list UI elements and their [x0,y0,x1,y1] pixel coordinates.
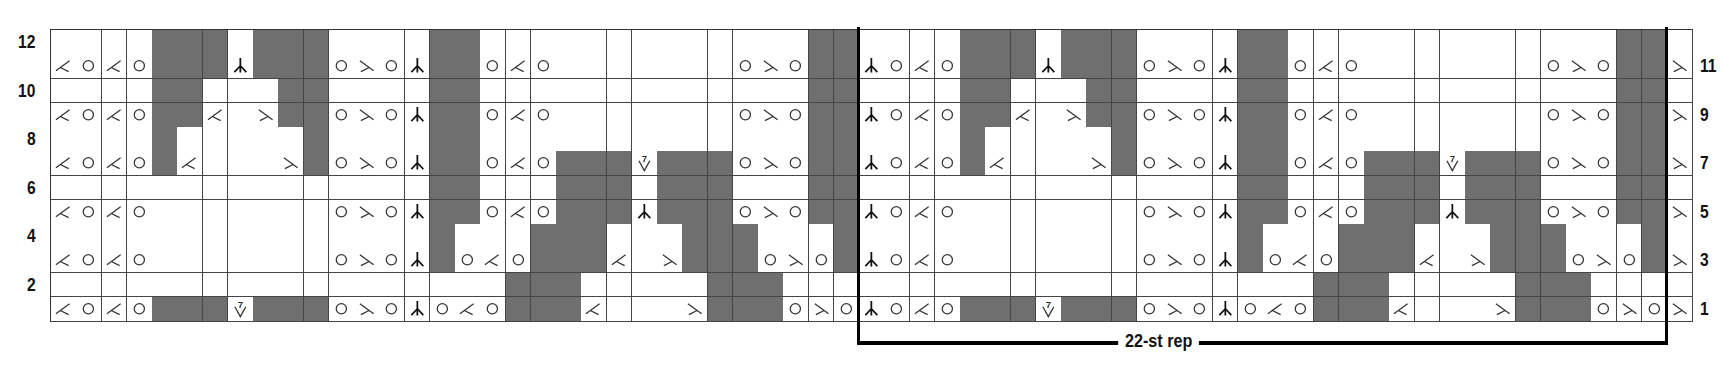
chart-cell [506,224,532,249]
right-decrease-icon [783,248,808,272]
right-decrease-icon [1566,151,1591,175]
chart-cell [1667,151,1693,176]
chart-cell [1288,248,1314,273]
chart-cell [1389,79,1415,104]
chart-cell [708,30,734,55]
left-decrease-icon [985,151,1010,175]
chart-cell [581,248,607,273]
chart-cell [1516,127,1542,152]
chart-cell [960,176,986,201]
chart-cell [1061,273,1087,298]
chart-cell [1516,103,1542,128]
chart-cell [809,200,835,225]
chart-cell [1162,103,1188,128]
chart-cell [758,176,784,201]
chart-cell [354,30,380,55]
right-decrease-icon [1667,297,1692,321]
chart-cell [480,127,506,152]
chart-cell [152,30,178,55]
chart-cell [1061,79,1087,104]
chart-cell [1415,30,1441,55]
left-decrease-icon [480,248,505,272]
chart-cell [506,30,532,55]
chart-cell [1137,176,1163,201]
chart-cell [1389,54,1415,79]
chart-cell [1490,79,1516,104]
chart-cell [960,273,986,298]
chart-cell [354,224,380,249]
chart-cell [1389,151,1415,176]
chart-cell [506,200,532,225]
repeat-bracket-right [1665,27,1669,344]
chart-cell [1667,127,1693,152]
yarn-over-icon [935,200,960,224]
chart-cell [1112,30,1138,55]
chart-cell [1314,79,1340,104]
yarn-over-icon [1642,297,1667,321]
chart-cell [329,79,355,104]
chart-cell [632,297,658,322]
chart-cell [1288,127,1314,152]
yarn-over-icon [506,248,531,272]
chart-cell [607,127,633,152]
double-decrease-icon [405,54,430,78]
chart-cell [1339,273,1365,298]
chart-cell [1187,273,1213,298]
chart-cell [329,273,355,298]
chart-cell [51,151,77,176]
chart-cell [278,273,304,298]
repeat-label: 22-st rep [1118,330,1199,352]
chart-cell [1339,224,1365,249]
chart-cell [632,273,658,298]
chart-cell [581,200,607,225]
chart-cell [1465,273,1491,298]
yarn-over-icon [531,151,556,175]
yarn-over-icon [935,54,960,78]
chart-cell [783,297,809,322]
chart-cell [1465,200,1491,225]
chart-cell [1389,30,1415,55]
yarn-over-icon [531,200,556,224]
chart-cell [985,127,1011,152]
chart-cell [531,127,557,152]
yarn-over-icon [531,103,556,127]
chart-cell [253,273,279,298]
chart-cell [1617,297,1643,322]
chart-cell [1617,248,1643,273]
chart-cell [253,297,279,322]
yarn-over-icon [1541,54,1566,78]
chart-cell [1364,151,1390,176]
chart-cell [1415,248,1441,273]
chart-cell [556,30,582,55]
right-decrease-icon [1617,297,1642,321]
right-decrease-icon [1162,200,1187,224]
chart-cell [556,297,582,322]
chart-cell [1617,127,1643,152]
yarn-over-icon [1541,151,1566,175]
chart-cell [1086,103,1112,128]
chart-cell [127,176,153,201]
chart-cell [960,151,986,176]
chart-cell [102,200,128,225]
chart-cell [884,103,910,128]
chart-cell [278,79,304,104]
chart-cell [1389,103,1415,128]
chart-cell [480,30,506,55]
chart-cell [152,273,178,298]
yarn-over-icon [379,200,404,224]
chart-cell [783,54,809,79]
chart-cell [203,54,229,79]
chart-cell: 7 [1036,297,1062,322]
chart-cell [632,224,658,249]
chart-cell [1667,248,1693,273]
chart-cell [708,297,734,322]
right-decrease-icon [1465,248,1490,272]
chart-cell [455,273,481,298]
yarn-over-icon [480,54,505,78]
chart-cell [177,103,203,128]
chart-cell [1339,103,1365,128]
chart-cell [809,224,835,249]
chart-cell [1314,297,1340,322]
chart-cell [733,54,759,79]
chart-cell [1566,297,1592,322]
